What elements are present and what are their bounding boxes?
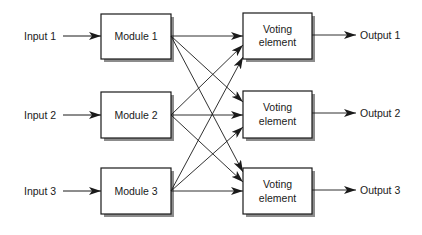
edge-module3-voter1 [171, 57, 243, 191]
output-2-group: Output 2 [312, 107, 400, 119]
edge-module3-voter2 [171, 127, 243, 191]
voter-3-label-line1: Voting [263, 178, 292, 190]
redundancy-diagram: Input 1 Input 2 Input 3 Module 1 Module … [0, 0, 422, 235]
voter-2-label-line1: Voting [263, 101, 292, 113]
cross-connections [171, 36, 243, 191]
voter-1-label-line2: element [259, 36, 296, 48]
output-3-label: Output 3 [360, 184, 400, 196]
module-1-box: Module 1 [101, 14, 174, 62]
module-2-label: Module 2 [114, 109, 157, 121]
module-3-label: Module 3 [114, 185, 157, 197]
voter-1-label-line1: Voting [263, 23, 292, 35]
module-3-box: Module 3 [101, 168, 174, 217]
voter-3-rect [243, 168, 312, 214]
output-3-group: Output 3 [312, 184, 400, 196]
voter-3-box: Voting element [243, 168, 315, 217]
input-3-label: Input 3 [24, 185, 56, 197]
module-1-label: Module 1 [114, 30, 157, 42]
input-1-label: Input 1 [24, 30, 56, 42]
edge-module1-voter2 [171, 36, 243, 102]
input-1-group: Input 1 [24, 30, 101, 42]
voter-1-box: Voting element [243, 13, 315, 62]
voter-2-box: Voting element [243, 91, 315, 141]
voter-2-label-line2: element [259, 115, 296, 127]
edge-module2-voter3 [171, 115, 243, 182]
input-3-group: Input 3 [24, 185, 101, 197]
voter-3-label-line2: element [259, 192, 296, 204]
input-2-label: Input 2 [24, 109, 56, 121]
output-1-group: Output 1 [312, 29, 400, 41]
output-1-label: Output 1 [360, 29, 400, 41]
input-2-group: Input 2 [24, 109, 101, 121]
output-2-label: Output 2 [360, 107, 400, 119]
module-2-box: Module 2 [101, 92, 174, 141]
